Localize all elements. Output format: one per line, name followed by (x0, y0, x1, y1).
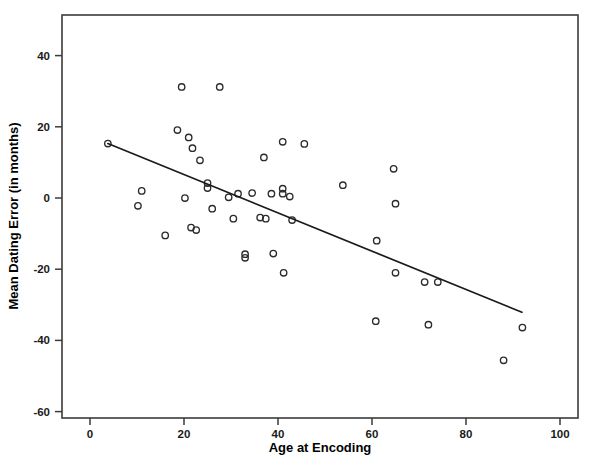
y-tick-label: 40 (37, 50, 50, 62)
x-tick-label: 100 (550, 428, 569, 440)
plot-background (0, 0, 601, 472)
y-tick-label: -40 (33, 334, 50, 346)
x-tick-label: 60 (366, 428, 379, 440)
y-tick-label: -20 (33, 263, 50, 275)
x-axis-label: Age at Encoding (269, 440, 372, 455)
x-tick-label: 40 (272, 428, 285, 440)
x-tick-label: 0 (87, 428, 93, 440)
scatter-plot: 020406080100 -60-40-2002040 Age at Encod… (0, 0, 601, 472)
y-axis-label: Mean Dating Error (in months) (6, 122, 21, 309)
x-tick-label: 80 (460, 428, 473, 440)
y-tick-label: -60 (33, 406, 50, 418)
y-tick-label: 20 (37, 121, 50, 133)
y-tick-label: 0 (44, 192, 50, 204)
x-tick-label: 20 (178, 428, 191, 440)
chart-container: 020406080100 -60-40-2002040 Age at Encod… (0, 0, 601, 472)
